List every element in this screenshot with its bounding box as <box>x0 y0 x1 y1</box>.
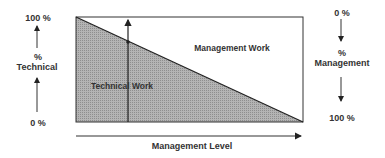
left-axis-percent-label: % <box>24 52 52 62</box>
right-axis-title: Management <box>314 58 370 68</box>
diagram-canvas <box>0 0 385 158</box>
technical-work-label: Technical Work <box>86 81 158 91</box>
left-axis-title: Technical <box>14 62 60 72</box>
x-axis-label: Management Level <box>140 141 244 151</box>
right-axis-bottom-label: 100 % <box>325 113 359 123</box>
left-axis-bottom-label: 0 % <box>24 118 52 128</box>
right-axis-top-label: 0 % <box>328 8 356 18</box>
management-work-label: Management Work <box>192 43 272 53</box>
level-indicator-dot <box>126 40 130 44</box>
right-axis-percent-label: % <box>328 48 356 58</box>
left-axis-top-label: 100 % <box>24 13 52 23</box>
